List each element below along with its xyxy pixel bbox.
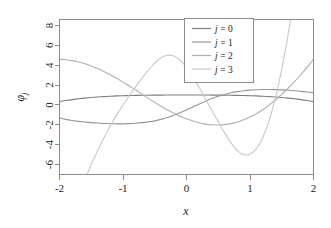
y-tick-label: 2: [43, 82, 55, 88]
legend-label-j-0: j=0: [213, 24, 233, 34]
y-tick-label-group: 2: [43, 82, 55, 88]
y-tick-label-group: 6: [43, 42, 55, 48]
x-axis-title: x: [182, 204, 189, 218]
y-tick-label: -4: [43, 140, 55, 150]
line-chart: -2-1012 86420-2-4-6 x φj j=0j=1j=2j=3: [0, 0, 331, 228]
y-tick-label-group: 0: [43, 102, 55, 108]
y-tick-label-group: 8: [43, 22, 55, 28]
y-tick-label: -2: [43, 120, 55, 129]
chart-figure: -2-1012 86420-2-4-6 x φj j=0j=1j=2j=3: [0, 0, 331, 228]
x-tick-label: -1: [118, 182, 127, 194]
y-tick-label: 6: [43, 42, 55, 48]
svg-text:φj: φj: [13, 92, 29, 102]
y-axis-title: φj: [13, 92, 29, 102]
y-tick-label-group: 4: [43, 62, 55, 68]
legend-label-j-1: j=1: [213, 38, 233, 48]
y-tick-label-group: -6: [43, 159, 55, 169]
x-tick-label: 1: [247, 182, 253, 194]
legend-label-j-3: j=3: [213, 65, 233, 75]
x-tick-label: 2: [311, 182, 317, 194]
y-tick-label-group: -4: [43, 140, 55, 150]
y-axis-title-subscript: j: [19, 92, 29, 96]
legend[interactable]: j=0j=1j=2j=3: [185, 19, 254, 83]
x-tick-label: -2: [55, 182, 64, 194]
y-tick-label: -6: [43, 159, 55, 169]
x-tick-label: 0: [184, 182, 190, 194]
y-tick-label: 4: [43, 62, 55, 68]
y-tick-label: 0: [43, 102, 55, 108]
y-axis-ticks: 86420-2-4-6: [43, 22, 60, 169]
y-tick-label-group: -2: [43, 120, 55, 129]
x-axis-ticks: -2-1012: [55, 175, 316, 194]
legend-label-j-2: j=2: [213, 51, 233, 61]
y-tick-label: 8: [43, 22, 55, 28]
